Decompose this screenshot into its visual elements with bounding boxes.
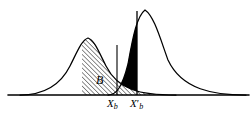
region-label-B: B [96, 74, 103, 86]
axis-label-Xpb-subscript: b [139, 102, 143, 111]
chart-canvas [0, 0, 252, 119]
axis-label-Xpb-base: X [130, 97, 137, 109]
axis-label-Xb-base: X [107, 97, 114, 109]
region-label-A: A [123, 74, 130, 86]
hatched-overlap-region [82, 0, 252, 95]
axis-label-Xb-subscript: b [114, 102, 118, 111]
axis-label-Xpb: X′b [130, 98, 143, 111]
distribution-overlap-figure: B A Xb X′b [0, 0, 252, 119]
axis-label-Xb: Xb [107, 98, 118, 111]
